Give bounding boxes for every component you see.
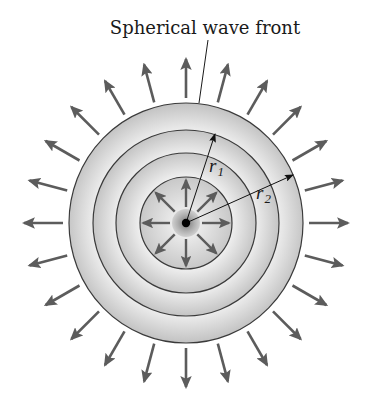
outer-ray-arrow-icon [273, 311, 301, 339]
outer-ray-arrow-icon [218, 65, 228, 103]
outer-ray-arrow-icon [71, 311, 99, 339]
title-leader-line [199, 40, 208, 103]
point-source-dot [182, 219, 190, 227]
outer-ray-arrow-icon [71, 107, 99, 135]
outer-ray-arrow-icon [105, 81, 125, 115]
r2-subscript: 2 [264, 191, 271, 206]
outer-ray-arrow-icon [305, 181, 343, 191]
outer-ray-arrow-icon [273, 107, 301, 135]
outer-ray-arrow-icon [46, 141, 80, 161]
outer-ray-arrow-icon [30, 181, 68, 191]
outer-ray-arrow-icon [144, 344, 154, 382]
outer-ray-arrow-icon [248, 331, 268, 365]
outer-ray-arrow-icon [305, 255, 343, 265]
outer-ray-arrow-icon [46, 286, 80, 306]
outer-ray-arrow-icon [144, 65, 154, 103]
outer-ray-arrow-icon [293, 286, 327, 306]
diagram-title: Spherical wave front [110, 17, 301, 38]
spherical-wave-diagram: Spherical wave front r1 r2 [0, 0, 367, 402]
outer-ray-arrow-icon [30, 255, 68, 265]
outer-ray-arrow-icon [218, 344, 228, 382]
outer-ray-arrow-icon [293, 141, 327, 161]
r2-symbol: r [256, 182, 264, 203]
outer-ray-arrow-icon [105, 331, 125, 365]
r1-symbol: r [209, 155, 217, 176]
r1-subscript: 1 [217, 164, 224, 179]
outer-ray-arrow-icon [248, 81, 268, 115]
